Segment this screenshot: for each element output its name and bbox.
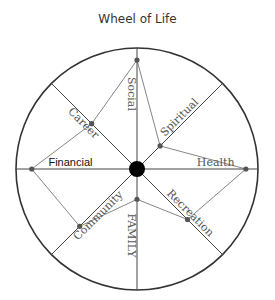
label-community: Community: [71, 188, 126, 243]
label-spiritual: Spiritual: [158, 95, 202, 139]
point-financial: [29, 166, 34, 171]
label-social: Social: [125, 77, 138, 111]
point-social: [134, 58, 139, 63]
point-health: [243, 166, 248, 171]
label-career: Career: [65, 105, 102, 142]
point-spiritual: [158, 143, 163, 148]
label-financial: Financial: [48, 156, 92, 168]
label-health: Health: [197, 156, 235, 169]
wheel-hub: [129, 161, 145, 177]
wheel-of-life: SocialSpiritualHealthRecreationFAMILYCom…: [0, 0, 275, 300]
label-family: FAMILY: [125, 214, 138, 259]
point-family: [134, 197, 139, 202]
